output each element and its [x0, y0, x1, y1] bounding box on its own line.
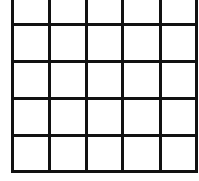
grid-diagram [0, 0, 199, 181]
grid-horizontal-line [11, 134, 198, 137]
grid-horizontal-line [11, 60, 198, 63]
grid-horizontal-line [11, 23, 198, 26]
grid-horizontal-line [11, 170, 198, 173]
grid-horizontal-line [11, 97, 198, 100]
